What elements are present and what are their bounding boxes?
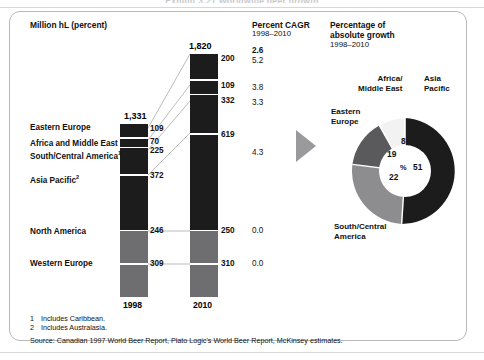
bar-1998-segment-north-america <box>120 231 148 263</box>
bar-2010-segment-africa-middle-east <box>190 81 218 94</box>
category-label-eastern-europe: Eastern Europe <box>30 123 91 133</box>
bar-year-1998: 1998 <box>123 300 142 310</box>
donut-label-south-central-america: South/Central America <box>334 222 386 241</box>
donut-label-eastern-europe-line2: Europe <box>331 117 360 127</box>
donut-value-eastern-europe: 19 <box>387 149 396 159</box>
bar-2010-value-south-central-america: 332 <box>221 96 235 105</box>
donut-label-asia-pacific: Asia Pacific <box>424 74 450 93</box>
category-label-south-central-america: South/Central America1 <box>30 148 121 162</box>
donut-label-south-central-america-line1: South/Central <box>334 222 386 232</box>
bar-2010-value-asia-pacific: 619 <box>221 130 235 139</box>
category-label-north-america-text: North America <box>30 227 86 236</box>
bar-1998-value-north-america: 246 <box>150 226 164 235</box>
category-label-western-europe: Western Europe <box>30 259 93 269</box>
bar-2010 <box>190 54 218 297</box>
bar-2010-segment-asia-pacific <box>190 135 218 230</box>
donut-value-south-central-america: 22 <box>389 172 398 182</box>
bar-1998-segment-asia-pacific <box>120 176 148 230</box>
donut-header-line1: Percentage of <box>330 20 395 30</box>
donut-label-eastern-europe-line1: Eastern <box>331 107 360 117</box>
donut-value-africa-middle-east: 8 <box>401 136 406 146</box>
source-line: Source: Canadian 1997 World Beer Report,… <box>30 336 343 345</box>
category-label-north-america: North America <box>30 227 86 237</box>
cagr-value-total: 2.6 <box>252 46 263 55</box>
cagr-value-south-central-america: 3.3 <box>252 98 263 107</box>
donut-header-line2: absolute growth <box>330 30 395 40</box>
bar-1998-segment-eastern-europe <box>120 124 148 137</box>
category-label-asia-pacific-text: Asia Pacific <box>30 176 76 185</box>
bar-2010-value-western-europe: 310 <box>221 259 235 268</box>
category-label-asia-pacific: Asia Pacific2 <box>30 172 79 186</box>
donut-subheader: 1998–2010 <box>330 40 369 49</box>
donut-center-symbol: % <box>400 163 407 172</box>
donut-label-africa-middle-east-line2: Middle East <box>358 84 402 94</box>
bar-1998-value-asia-pacific: 372 <box>150 171 164 180</box>
category-label-eastern-europe-text: Eastern Europe <box>30 123 91 132</box>
bar-2010-value-africa-middle-east: 109 <box>221 81 235 90</box>
donut-label-south-central-america-line2: America <box>334 232 386 242</box>
bar-total-2010: 1,820 <box>189 41 212 51</box>
bar-1998 <box>120 124 148 297</box>
cagr-value-africa-middle-east: 3.8 <box>252 83 263 92</box>
bar-1998-value-eastern-europe: 109 <box>150 124 164 133</box>
top-divider <box>0 7 484 8</box>
footnote-1-text: Includes Caribbean. <box>41 314 105 323</box>
cagr-subheader: 1998–2010 <box>252 29 291 38</box>
bar-2010-segment-south-central-america <box>190 95 218 133</box>
cagr-value-eastern-europe: 5.2 <box>252 56 263 65</box>
exhibit-title: Exhibit 3.21 Worldwide beer growth <box>0 0 484 3</box>
bar-2010-value-eastern-europe: 200 <box>221 54 235 63</box>
bar-1998-value-western-europe: 309 <box>150 259 164 268</box>
unit-label: Million hL (percent) <box>30 20 107 30</box>
category-label-south-central-america-text: South/Central America <box>30 152 118 161</box>
bar-1998-segment-south-central-america <box>120 148 148 174</box>
bar-2010-segment-western-europe <box>190 265 218 298</box>
category-label-africa-middle-east-text: Africa and Middle East <box>30 139 118 148</box>
donut-value-asia-pacific: 51 <box>413 162 422 172</box>
exhibit-root: Exhibit 3.21 Worldwide beer growth Milli… <box>0 0 484 360</box>
donut-header: Percentage of absolute growth <box>330 20 395 40</box>
bar-1998-segment-africa-middle-east <box>120 139 148 147</box>
donut-label-africa-middle-east: Africa/ Middle East <box>358 74 402 93</box>
donut-label-eastern-europe: Eastern Europe <box>331 107 360 126</box>
cagr-value-asia-pacific: 4.3 <box>252 148 263 157</box>
bar-1998-segment-western-europe <box>120 265 148 298</box>
category-label-western-europe-text: Western Europe <box>30 259 93 268</box>
footnote-2-number: 2 <box>30 323 34 332</box>
right-arrow-icon <box>296 130 316 162</box>
donut-label-asia-pacific-line1: Asia <box>424 74 450 84</box>
category-label-south-central-america-footnote: 1 <box>118 150 121 156</box>
cagr-value-north-america: 0.0 <box>252 226 263 235</box>
bar-2010-segment-north-america <box>190 231 218 263</box>
footnote-1-number: 1 <box>30 314 34 323</box>
category-label-asia-pacific-footnote: 2 <box>76 174 79 180</box>
donut-label-africa-middle-east-line1: Africa/ <box>358 74 402 84</box>
cagr-value-western-europe: 0.0 <box>252 259 263 268</box>
bar-year-2010: 2010 <box>193 300 212 310</box>
bar-2010-segment-eastern-europe <box>190 54 218 79</box>
bar-2010-value-north-america: 250 <box>221 226 235 235</box>
bar-total-1998: 1,331 <box>124 111 147 121</box>
donut-label-asia-pacific-line2: Pacific <box>424 84 450 94</box>
bar-1998-value-africa-middle-east: 70 <box>150 137 159 146</box>
footnote-2-text: Includes Australasia. <box>41 323 107 332</box>
bottom-divider <box>0 352 484 353</box>
bar-1998-value-south-central-america: 225 <box>150 146 164 155</box>
